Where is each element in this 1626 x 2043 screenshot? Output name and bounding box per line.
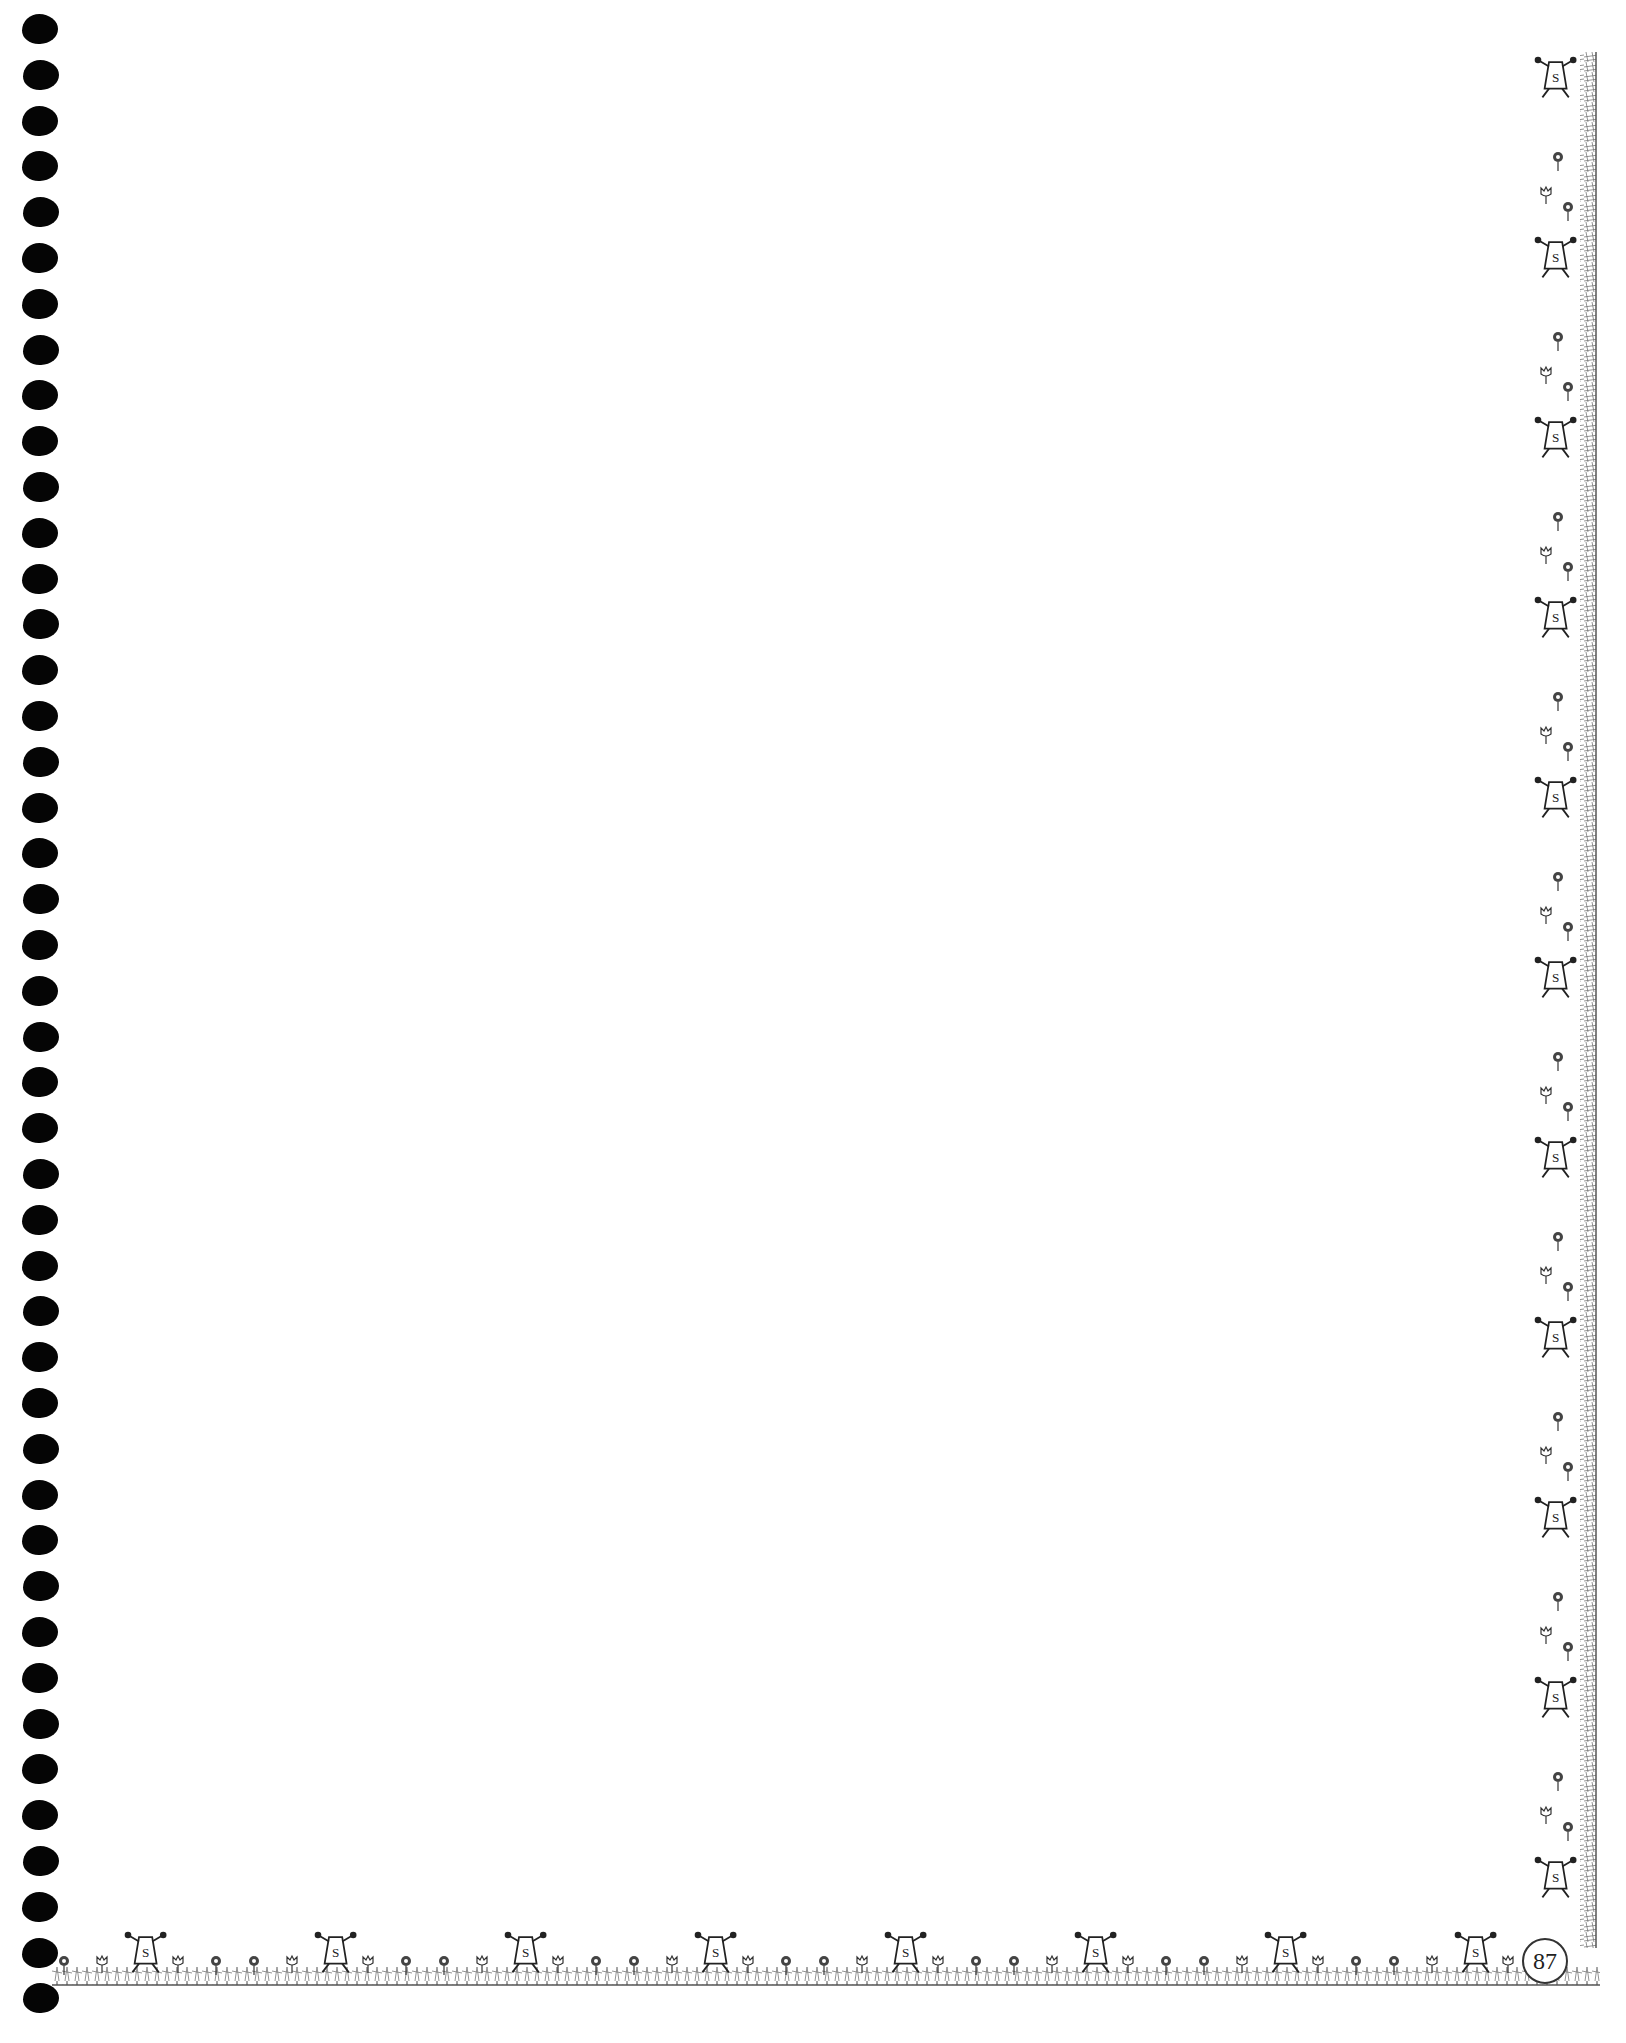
binding-hole: [23, 335, 59, 365]
binding-hole: [23, 1022, 59, 1052]
binding-hole: [23, 1709, 59, 1739]
spiral-binding-holes: [22, 14, 60, 2034]
binding-hole: [22, 838, 58, 868]
binding-hole: [23, 1159, 59, 1189]
binding-hole: [22, 793, 58, 823]
binding-hole: [22, 518, 58, 548]
binding-hole: [22, 426, 58, 456]
binding-hole: [22, 1663, 58, 1693]
binding-hole: [22, 930, 58, 960]
bottom-decorative-border: [52, 1925, 1600, 1995]
binding-hole: [22, 151, 58, 181]
binding-hole: [22, 380, 58, 410]
binding-hole: [22, 655, 58, 685]
binding-hole: [23, 60, 59, 90]
binding-hole: [22, 1251, 58, 1281]
binding-hole: [22, 1113, 58, 1143]
binding-hole: [23, 1571, 59, 1601]
binding-hole: [23, 884, 59, 914]
binding-hole: [22, 564, 58, 594]
binding-hole: [22, 701, 58, 731]
binding-hole: [22, 106, 58, 136]
right-decorative-border: S: [1528, 52, 1600, 1948]
binding-hole: [22, 1525, 58, 1555]
binding-hole: [23, 747, 59, 777]
binding-hole: [23, 472, 59, 502]
binding-hole: [23, 609, 59, 639]
binding-hole: [22, 14, 58, 44]
binding-hole: [22, 976, 58, 1006]
binding-hole: [22, 1480, 58, 1510]
binding-hole: [22, 289, 58, 319]
binding-hole: [22, 1342, 58, 1372]
page-number-badge: 87: [1522, 1938, 1568, 1984]
binding-hole: [22, 243, 58, 273]
binding-hole: [23, 197, 59, 227]
binding-hole: [22, 1067, 58, 1097]
binding-hole: [22, 1892, 58, 1922]
binding-hole: [22, 1205, 58, 1235]
binding-hole: [22, 1388, 58, 1418]
binding-hole: [22, 1754, 58, 1784]
binding-hole: [23, 1846, 59, 1876]
binding-hole: [22, 1617, 58, 1647]
binding-hole: [23, 1434, 59, 1464]
notebook-page: S 87: [0, 0, 1626, 2043]
binding-hole: [23, 1296, 59, 1326]
binding-hole: [22, 1800, 58, 1830]
